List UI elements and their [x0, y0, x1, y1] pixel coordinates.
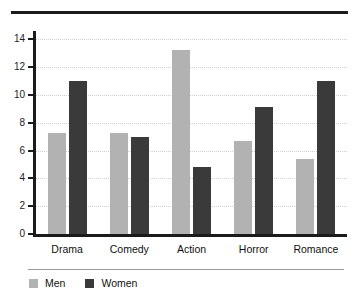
- bar-group-horror: [234, 31, 273, 234]
- category-label-romance: Romance: [293, 242, 338, 256]
- bar-action-men[interactable]: [172, 50, 190, 234]
- bar-action-women[interactable]: [193, 167, 211, 234]
- legend-label-women: Women: [101, 278, 137, 289]
- bar-group-romance: [296, 31, 335, 234]
- category-label-action: Action: [177, 242, 206, 256]
- plot-area: 02468101214: [33, 31, 347, 237]
- y-tick-label: 0: [19, 229, 25, 239]
- y-tick-mark: [28, 233, 33, 235]
- legend-label-men: Men: [45, 278, 65, 289]
- bar-comedy-women[interactable]: [131, 137, 149, 234]
- y-tick-mark: [28, 205, 33, 207]
- bar-horror-women[interactable]: [255, 107, 273, 234]
- bars-layer: [36, 31, 347, 234]
- category-label-comedy: Comedy: [110, 242, 149, 256]
- y-tick-label: 10: [14, 90, 25, 100]
- bar-drama-men[interactable]: [48, 133, 66, 235]
- y-tick-label: 4: [19, 173, 25, 183]
- y-tick-mark: [28, 94, 33, 96]
- bar-group-comedy: [110, 31, 149, 234]
- chart-legend: MenWomen: [29, 278, 137, 289]
- legend-item-women[interactable]: Women: [85, 278, 137, 289]
- top-divider-rule: [11, 11, 348, 14]
- bar-group-action: [172, 31, 211, 234]
- y-tick-label: 2: [19, 201, 25, 211]
- x-axis-line: [33, 234, 347, 237]
- y-tick-mark: [28, 38, 33, 40]
- x-axis-category-labels: DramaComedyActionHorrorRomance: [36, 242, 350, 258]
- bar-drama-women[interactable]: [69, 81, 87, 234]
- y-tick-label: 14: [14, 34, 25, 44]
- y-tick-label: 6: [19, 146, 25, 156]
- y-tick-mark: [28, 150, 33, 152]
- y-tick-mark: [28, 177, 33, 179]
- bar-romance-men[interactable]: [296, 159, 314, 234]
- legend-swatch-men: [29, 279, 38, 288]
- legend-item-men[interactable]: Men: [29, 278, 65, 289]
- legend-divider-rule: [28, 269, 344, 270]
- bar-horror-men[interactable]: [234, 141, 252, 234]
- bar-romance-women[interactable]: [317, 81, 335, 234]
- bar-comedy-men[interactable]: [110, 133, 128, 235]
- bar-group-drama: [48, 31, 87, 234]
- y-tick-mark: [28, 66, 33, 68]
- category-label-drama: Drama: [51, 242, 83, 256]
- y-tick-label: 8: [19, 118, 25, 128]
- bar-chart-figure: 02468101214 DramaComedyActionHorrorRoman…: [0, 0, 359, 299]
- y-tick-label: 12: [14, 62, 25, 72]
- y-tick-mark: [28, 122, 33, 124]
- category-label-horror: Horror: [239, 242, 269, 256]
- legend-swatch-women: [85, 279, 94, 288]
